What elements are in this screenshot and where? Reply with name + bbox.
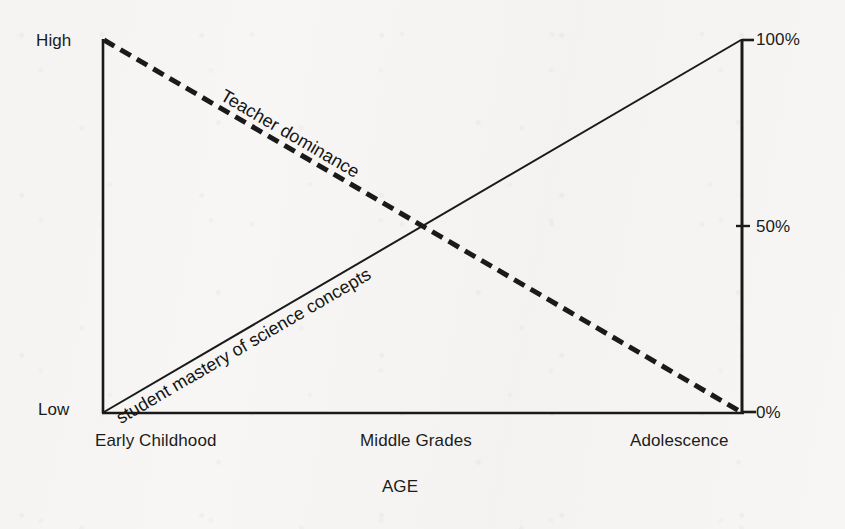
y-axis-left-label-high: High <box>36 31 71 51</box>
y-axis-left-label-low: Low <box>38 400 70 420</box>
x-axis-tick-early-childhood: Early Childhood <box>95 431 217 451</box>
x-axis-tick-adolescence: Adolescence <box>630 431 728 451</box>
chart-figure: High Low 100% 50% 0% Early Childhood Mid… <box>0 0 845 529</box>
y-axis-right-label-100: 100% <box>756 30 800 50</box>
x-axis-tick-middle-grades: Middle Grades <box>360 431 472 451</box>
x-axis-title: AGE <box>0 477 845 497</box>
y-axis-right-label-50: 50% <box>756 217 790 237</box>
y-axis-right-label-0: 0% <box>756 403 781 423</box>
